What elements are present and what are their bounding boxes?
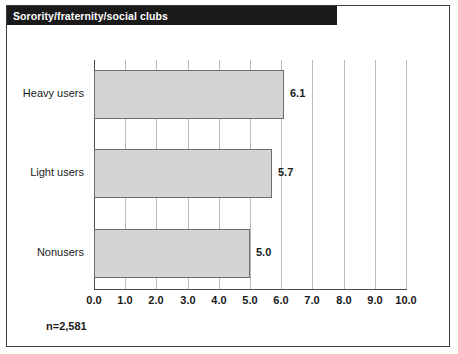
bar-value-label: 5.7: [278, 166, 293, 178]
plot-area: [94, 60, 406, 289]
bar-value-label: 5.0: [256, 246, 271, 258]
x-tick-label: 4.0: [204, 294, 234, 306]
category-label: Light users: [0, 166, 84, 178]
bar: [94, 149, 272, 198]
bar-value-label: 6.1: [290, 87, 305, 99]
chart-page: Sorority/fraternity/social clubs n=2,581…: [0, 0, 458, 354]
category-label: Heavy users: [0, 87, 84, 99]
x-tick-label: 2.0: [141, 294, 171, 306]
x-tick-label: 6.0: [266, 294, 296, 306]
gridline: [375, 60, 376, 289]
bar: [94, 229, 250, 278]
gridline: [344, 60, 345, 289]
sample-size-label: n=2,581: [46, 320, 87, 332]
x-axis-line: [94, 289, 407, 290]
x-tick-label: 0.0: [79, 294, 109, 306]
page-title: Sorority/fraternity/social clubs: [7, 10, 168, 22]
x-tick-label: 9.0: [360, 294, 390, 306]
gridline: [406, 60, 407, 289]
x-tick-label: 5.0: [235, 294, 265, 306]
x-tick-label: 10.0: [391, 294, 421, 306]
x-tick-label: 3.0: [173, 294, 203, 306]
chart-title-bar: Sorority/fraternity/social clubs: [7, 6, 337, 25]
x-tick-label: 7.0: [297, 294, 327, 306]
bar: [94, 70, 284, 119]
gridline: [312, 60, 313, 289]
x-tick-label: 8.0: [329, 294, 359, 306]
category-label: Nonusers: [0, 246, 84, 258]
x-tick-label: 1.0: [110, 294, 140, 306]
